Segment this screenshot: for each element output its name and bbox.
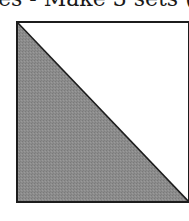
- instruction-caption: es - Make 3 sets (: [0, 0, 189, 10]
- half-square-triangle-block: [16, 21, 189, 202]
- hst-diagram: [16, 21, 189, 204]
